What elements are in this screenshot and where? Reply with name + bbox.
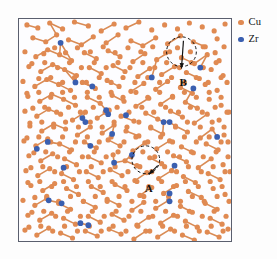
cu-marker-icon [238,20,244,26]
simulation-box-frame [18,18,232,242]
zr-marker-icon [238,37,244,43]
legend: Cu Zr [238,14,276,48]
figure-container: Cu Zr A B [0,0,277,259]
legend-label-cu: Cu [249,17,262,28]
legend-label-zr: Zr [249,34,259,45]
legend-entry-cu: Cu [238,14,276,31]
atom-configuration-plot [19,19,231,241]
cu-atoms-layer [20,19,231,241]
annotation-label-a: A [145,183,153,194]
annotation-label-b: B [179,77,186,88]
legend-entry-zr: Zr [238,31,276,48]
